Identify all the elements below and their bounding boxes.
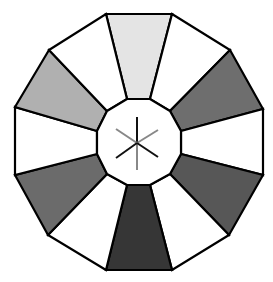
wheel-diagram [0,0,273,282]
dodecagon-wheel [0,0,273,282]
